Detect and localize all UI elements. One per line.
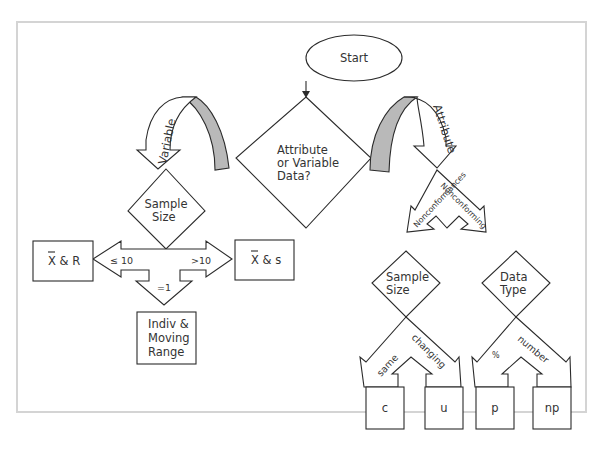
attribute-sample-size-decision: Sample Size bbox=[372, 251, 440, 317]
variable-sample-size-line-1: Sample bbox=[144, 197, 187, 211]
gt10-label: >10 bbox=[191, 255, 211, 266]
start-node: Start bbox=[306, 35, 402, 81]
c-chart-label: c bbox=[382, 401, 388, 415]
flowchart-diagram: Start Attribute or Variable Data? Variab… bbox=[0, 0, 606, 456]
indiv-line-3: Range bbox=[148, 345, 184, 359]
data-type-split-arrow bbox=[472, 317, 571, 387]
xbar-s-label: X & s bbox=[251, 253, 281, 267]
data-type-decision: Data Type bbox=[482, 251, 550, 317]
variable-sample-size-line-2: Size bbox=[152, 210, 176, 224]
decision-line-3: Data? bbox=[277, 169, 311, 183]
start-label: Start bbox=[340, 51, 369, 65]
indiv-line-2: Moving bbox=[148, 331, 190, 345]
u-chart-box: u bbox=[425, 387, 463, 429]
le10-label: ≤ 10 bbox=[110, 255, 133, 266]
sample-size-outcome-arrows bbox=[93, 241, 232, 305]
attribute-sample-size-line-1: Sample bbox=[386, 270, 429, 284]
xbar-r-label: X & R bbox=[48, 254, 80, 268]
eq1-label: =1 bbox=[157, 282, 171, 293]
variable-branch-arrow: Variable bbox=[137, 97, 229, 170]
xbar-s-chart-box: X & s bbox=[235, 240, 294, 280]
attribute-or-variable-decision: Attribute or Variable Data? bbox=[236, 97, 371, 228]
percent-label: % bbox=[492, 351, 500, 360]
indiv-line-1: Indiv & bbox=[148, 317, 189, 331]
decision-line-2: or Variable bbox=[277, 156, 339, 170]
u-chart-label: u bbox=[440, 401, 447, 415]
xbar-r-chart-box: X & R bbox=[33, 241, 93, 281]
p-chart-label: p bbox=[491, 401, 498, 415]
c-chart-box: c bbox=[366, 387, 404, 429]
p-chart-box: p bbox=[476, 387, 514, 429]
indiv-moving-range-box: Indiv & Moving Range bbox=[137, 312, 196, 364]
attribute-branch-arrow: Attribute bbox=[370, 97, 459, 172]
variable-sample-size-decision: Sample Size bbox=[128, 169, 205, 249]
decision-line-1: Attribute bbox=[277, 143, 328, 157]
data-type-line-1: Data bbox=[500, 270, 527, 284]
np-chart-label: np bbox=[545, 401, 560, 415]
data-type-line-2: Type bbox=[499, 283, 526, 297]
np-chart-box: np bbox=[533, 387, 571, 429]
sample-size-split-arrow bbox=[360, 317, 461, 387]
attribute-sample-size-line-2: Size bbox=[386, 283, 410, 297]
